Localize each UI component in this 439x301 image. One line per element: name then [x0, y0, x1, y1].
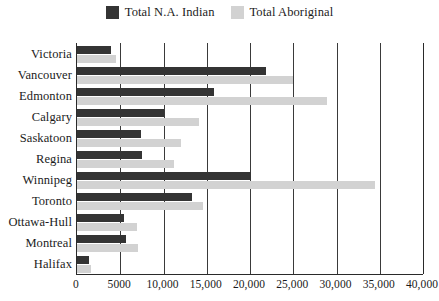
bar-vancouver-aboriginal [77, 76, 293, 84]
bar-halifax-aboriginal [77, 265, 91, 273]
x-axis-tick-35000: 35,000 [363, 278, 395, 291]
bar-row [77, 190, 423, 211]
bar-calgary-na-indian [77, 109, 164, 117]
bar-row [77, 232, 423, 253]
bar-toronto-na-indian [77, 193, 192, 201]
x-axis-tick-5000: 5000 [108, 278, 131, 291]
y-axis-label-saskatoon: Saskatoon [0, 131, 72, 145]
x-axis-tick-25000: 25,000 [276, 278, 308, 291]
bar-winnipeg-aboriginal [77, 181, 375, 189]
bar-row [77, 148, 423, 169]
bar-row [77, 253, 423, 274]
legend-label-na-indian: Total N.A. Indian [125, 6, 215, 19]
bar-row [77, 43, 423, 64]
bar-ottawa-hull-aboriginal [77, 223, 137, 231]
x-axis-tick-labels: 0500010,00015,00020,00025,00030,00035,00… [0, 278, 439, 298]
legend-swatch-aboriginal [231, 6, 244, 19]
bar-row [77, 64, 423, 85]
bar-chart: Total N.A. Indian Total Aboriginal Victo… [0, 0, 439, 301]
bar-row [77, 211, 423, 232]
bar-halifax-na-indian [77, 256, 89, 264]
legend-swatch-na-indian [106, 6, 119, 19]
bar-regina-aboriginal [77, 160, 174, 168]
bar-rows [77, 43, 423, 274]
x-axis-tick-30000: 30,000 [319, 278, 351, 291]
x-axis-tick-40000: 40,000 [406, 278, 438, 291]
y-axis-label-montreal: Montreal [0, 236, 72, 250]
bar-row [77, 169, 423, 190]
plot-area [76, 43, 423, 275]
bar-saskatoon-aboriginal [77, 139, 181, 147]
bar-ottawa-hull-na-indian [77, 214, 124, 222]
legend-entry-aboriginal: Total Aboriginal [231, 6, 334, 19]
y-axis-label-regina: Regina [0, 152, 72, 166]
bar-victoria-na-indian [77, 46, 111, 54]
x-axis-tick-20000: 20,000 [233, 278, 265, 291]
bar-edmonton-aboriginal [77, 97, 327, 105]
legend-entry-na-indian: Total N.A. Indian [106, 6, 215, 19]
chart-legend: Total N.A. Indian Total Aboriginal [0, 6, 439, 19]
x-axis-tick-10000: 10,000 [146, 278, 178, 291]
bar-victoria-aboriginal [77, 55, 116, 63]
y-axis-label-edmonton: Edmonton [0, 89, 72, 103]
bar-montreal-na-indian [77, 235, 126, 243]
bar-row [77, 106, 423, 127]
y-axis-category-labels: VictoriaVancouverEdmontonCalgarySaskatoo… [0, 43, 72, 274]
bar-toronto-aboriginal [77, 202, 203, 210]
legend-label-aboriginal: Total Aboriginal [250, 6, 334, 19]
bar-winnipeg-na-indian [77, 172, 251, 180]
bar-vancouver-na-indian [77, 67, 266, 75]
plot-right-edge [423, 43, 424, 274]
y-axis-label-winnipeg: Winnipeg [0, 173, 72, 187]
bar-row [77, 85, 423, 106]
y-axis-label-vancouver: Vancouver [0, 68, 72, 82]
bar-regina-na-indian [77, 151, 142, 159]
y-axis-label-ottawa-hull: Ottawa-Hull [0, 215, 72, 229]
x-axis-tick-0: 0 [73, 278, 79, 291]
bar-montreal-aboriginal [77, 244, 138, 252]
y-axis-label-victoria: Victoria [0, 47, 72, 61]
y-axis-label-halifax: Halifax [0, 257, 72, 271]
bar-calgary-aboriginal [77, 118, 199, 126]
bar-saskatoon-na-indian [77, 130, 141, 138]
y-axis-label-toronto: Toronto [0, 194, 72, 208]
bar-row [77, 127, 423, 148]
bar-edmonton-na-indian [77, 88, 214, 96]
x-axis-tick-15000: 15,000 [190, 278, 222, 291]
y-axis-label-calgary: Calgary [0, 110, 72, 124]
